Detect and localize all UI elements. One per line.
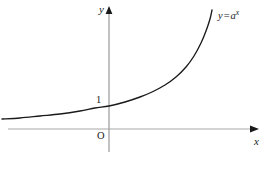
x-axis-arrow-icon [250, 125, 259, 132]
x-axis-label: x [254, 136, 259, 147]
curve-equation-exponent: x [236, 8, 239, 17]
origin-label: O [97, 131, 105, 142]
exponential-curve [2, 10, 212, 119]
curve-equation-label: y=ax [218, 11, 239, 22]
exponential-graph-figure: y x O 1 y=ax [0, 0, 271, 182]
y-intercept-label: 1 [96, 95, 101, 106]
plot-canvas [0, 0, 271, 182]
curve-equation-equals: = [223, 10, 231, 21]
y-axis-arrow-icon [106, 6, 113, 14]
curve-equation-y: y [218, 10, 223, 21]
y-axis-label: y [99, 4, 104, 15]
